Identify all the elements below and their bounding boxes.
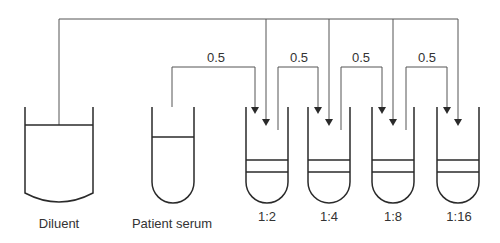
transfer-volume-label: 0.5	[418, 50, 436, 65]
container-label: Diluent	[39, 216, 80, 231]
dilution-tube-1-2: 1:2	[246, 107, 288, 224]
transfer-volume-label: 0.5	[352, 50, 370, 65]
arrow-transfer-icon	[378, 107, 386, 114]
arrow-transfer-icon	[314, 107, 322, 114]
serial-dilution-diagram: 0.5 0.5 0.5 0.5 Diluent Patient serum 1:…	[0, 0, 500, 243]
diluent-beaker: Diluent	[25, 107, 93, 231]
transfer-volume-label: 0.5	[207, 50, 225, 65]
transfer-1-2-to-1-4: 0.5	[278, 50, 322, 130]
arrow-diluent-to-1-8-icon	[389, 119, 397, 126]
arrow-diluent-to-1-2-icon	[262, 119, 270, 126]
container-label: Patient serum	[132, 216, 212, 231]
arrow-diluent-to-1-16-icon	[454, 119, 462, 126]
arrow-transfer-icon	[443, 107, 451, 114]
transfer-1-8-to-1-16: 0.5	[406, 50, 451, 130]
dilution-label: 1:8	[384, 209, 402, 224]
dilution-label: 1:16	[446, 209, 471, 224]
arrow-transfer-icon	[251, 107, 259, 114]
arrow-diluent-to-1-4-icon	[325, 119, 333, 126]
transfer-1-4-to-1-8: 0.5	[341, 50, 386, 130]
patient-serum-tube: Patient serum	[132, 107, 212, 231]
diluent-distribution-lines	[59, 19, 462, 126]
dilution-label: 1:4	[320, 209, 338, 224]
dilution-label: 1:2	[258, 209, 276, 224]
transfer-volume-label: 0.5	[290, 50, 308, 65]
transfer-serum-to-1-2: 0.5	[172, 50, 259, 114]
